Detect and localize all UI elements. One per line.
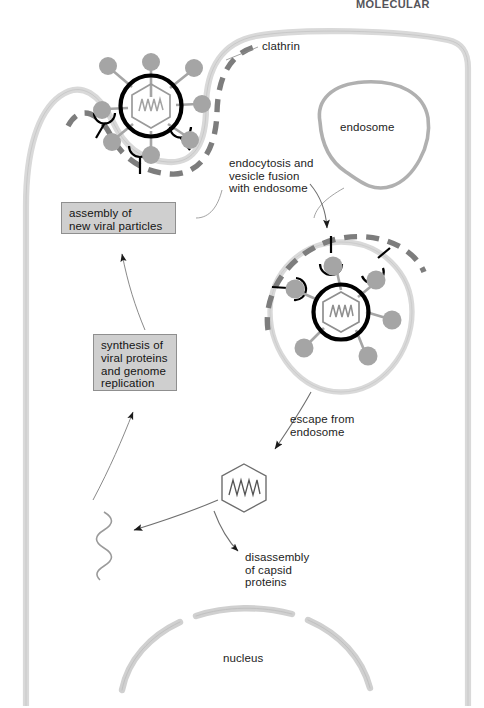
free-capsid — [222, 464, 266, 512]
endocytic-vesicle — [267, 237, 424, 392]
label-disassembly: disassembly of capsid proteins — [245, 551, 309, 589]
box-synthesis-viral-proteins: synthesis of viral proteins and genome r… — [93, 334, 177, 391]
virus-particle-surface — [93, 53, 211, 164]
label-escape: escape from endosome — [290, 413, 354, 438]
nuclear-envelope — [122, 608, 370, 690]
label-clathrin: clathrin — [262, 40, 300, 53]
assembly-arrow — [122, 254, 145, 330]
nuclear-envelope-outline — [122, 608, 370, 690]
genome-release-arrow — [134, 500, 218, 530]
virus-particle-in-vesicle — [272, 236, 402, 366]
virus-entry-diagram: MOLECULAR BIOLOGY — [0, 0, 484, 708]
endosome-organelle — [319, 82, 428, 188]
released-genome — [97, 512, 112, 580]
label-nucleus: nucleus — [223, 652, 263, 665]
diagram-canvas — [0, 0, 484, 708]
label-endosome: endosome — [340, 121, 395, 134]
label-endocytosis: endocytosis and vesicle fusion with endo… — [229, 157, 314, 195]
synthesis-arrow — [93, 412, 133, 500]
disassembly-arrow — [214, 511, 238, 551]
box-assembly-new-viral-particles: assembly of new viral particles — [61, 202, 176, 234]
